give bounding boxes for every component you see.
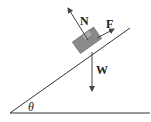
weight-label: W — [96, 63, 108, 77]
force-label: F — [106, 17, 113, 31]
angle-label: θ — [28, 100, 34, 114]
incline-diagram: N F W θ — [0, 0, 151, 122]
normal-label: N — [80, 14, 89, 28]
block — [72, 27, 101, 53]
